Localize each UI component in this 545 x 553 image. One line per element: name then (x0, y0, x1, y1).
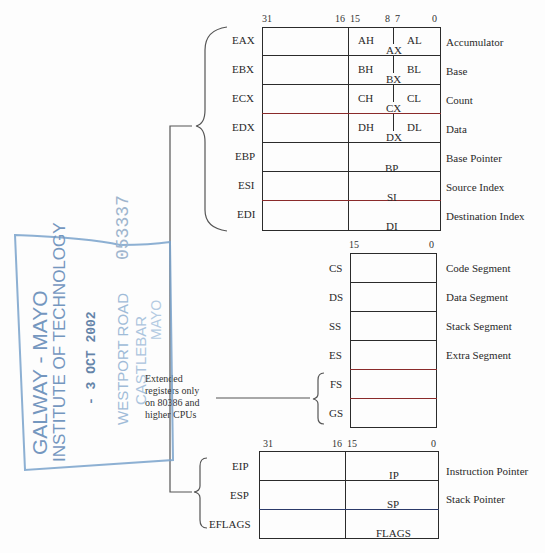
stamp-line-galway-mayo: GALWAY - MAYO (28, 290, 52, 455)
stamp-line-institute: INSTITUTE OF TECHNOLOGY (50, 222, 70, 462)
stamp-address-3: MAYO (148, 300, 164, 340)
stamp-address-2: CASTLEBAR (132, 316, 149, 405)
stamp-date: - 3 OCT 2002 (84, 311, 99, 405)
stamp-address-1: WESTPORT ROAD (114, 293, 131, 425)
stamp-border (0, 0, 545, 553)
stamp-accession-number: 053337 (113, 195, 133, 260)
